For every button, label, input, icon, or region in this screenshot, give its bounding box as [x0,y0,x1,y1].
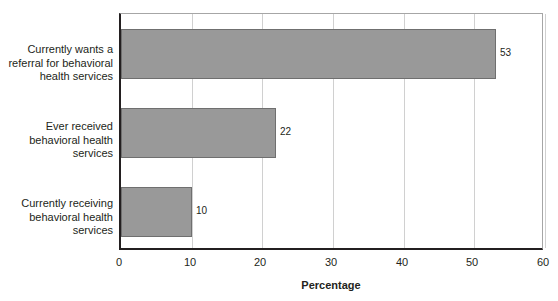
x-axis-title-text: Percentage [301,279,360,291]
bars-layer [121,14,542,248]
x-tick-label-50: 50 [452,256,492,268]
x-tick-label-10: 10 [170,256,210,268]
category-label-2: Currently receiving behavioral health se… [0,197,113,238]
value-label-0: 53 [500,48,511,58]
category-label-0-line-0: Currently wants a [0,43,113,57]
x-tick-label-0: 0 [99,256,139,268]
x-tick-label-60: 60 [523,256,558,268]
category-label-0-line-2: health services [0,70,113,84]
bar-2 [121,187,192,237]
category-label-2-line-1: behavioral health [0,211,113,225]
x-tick-label-40: 40 [382,256,422,268]
gridline-60 [545,14,546,248]
category-label-0: Currently wants a referral for behaviora… [0,43,113,84]
x-tick-label-20: 20 [240,256,280,268]
plot-area [119,13,543,250]
category-label-1-line-1: behavioral health [0,134,113,148]
category-label-1-line-2: services [0,147,113,161]
value-label-2: 10 [196,206,207,216]
category-label-1: Ever received behavioral health services [0,120,113,161]
category-label-1-line-0: Ever received [0,120,113,134]
bar-chart: Currently wants a referral for behaviora… [0,0,558,301]
bar-1 [121,108,276,158]
category-axis-labels: Currently wants a referral for behaviora… [0,13,113,250]
x-tick-label-30: 30 [311,256,351,268]
category-label-2-line-2: services [0,224,113,238]
category-label-2-line-0: Currently receiving [0,197,113,211]
value-label-1: 22 [280,127,291,137]
bar-0 [121,29,496,79]
category-label-0-line-1: referral for behavioral [0,57,113,71]
x-axis-title: Percentage [0,279,558,291]
